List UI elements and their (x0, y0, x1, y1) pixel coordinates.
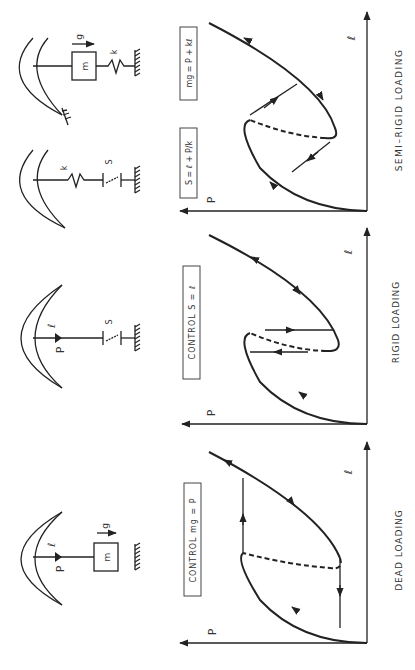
schematic-rigid: P ℓ S (21, 285, 140, 388)
displacement-label: S (105, 319, 114, 324)
gravity-label: g (74, 34, 84, 40)
control-box-semi-1: S = ℓ + P/k (180, 128, 197, 198)
loading-diagram: m g k k S P ℓ S (0, 0, 415, 670)
p-axis-label: P (205, 196, 218, 203)
svg-text:CONTROL S = ℓ: CONTROL S = ℓ (188, 285, 197, 360)
plot-dead: ℓ P DEAD LOADING (180, 442, 404, 643)
svg-text:mg = P + kℓ: mg = P + kℓ (185, 38, 194, 87)
schematic-semi-rigid-mass: m g k (19, 34, 140, 125)
plot-rigid: ℓ P RIGID LOADING (182, 228, 401, 424)
l-axis-label: ℓ (342, 250, 355, 256)
gravity-label: g (100, 523, 110, 529)
spring-icon (68, 174, 103, 187)
control-box-semi-2: mg = P + kℓ (180, 27, 197, 100)
plot-semi-rigid: ℓ P SEMI–RIGID LOADING (180, 12, 404, 211)
ground-hatch-icon (62, 108, 71, 125)
load-arrow-icon (55, 552, 62, 562)
panel-caption: DEAD LOADING (394, 509, 404, 591)
mass-label: m (102, 553, 112, 562)
svg-text:S = ℓ + P/k: S = ℓ + P/k (185, 141, 194, 185)
load-arrow-icon (55, 333, 62, 343)
p-axis-label: P (206, 628, 219, 635)
schematic-semi-rigid-spring: k S (20, 150, 140, 228)
spring-label: k (60, 165, 69, 170)
panel-caption: RIGID LOADING (391, 281, 401, 363)
l-axis-label: ℓ (342, 470, 355, 476)
schematic-dead: P ℓ m g (21, 512, 140, 605)
control-box-rigid: CONTROL S = ℓ (183, 266, 200, 379)
load-label: P (54, 565, 67, 572)
displacement-label: S (105, 159, 114, 164)
p-axis-label: P (205, 409, 218, 416)
load-label: P (54, 346, 67, 353)
mass-label: m (80, 62, 90, 71)
control-box-dead: CONTROL mg = P (184, 483, 201, 596)
deflection-label: ℓ (46, 324, 57, 328)
svg-text:CONTROL mg = P: CONTROL mg = P (189, 497, 198, 582)
l-axis-label: ℓ (345, 36, 358, 42)
spring-label: k (110, 49, 119, 54)
spring-icon (96, 60, 135, 73)
panel-caption: SEMI–RIGID LOADING (394, 49, 404, 172)
deflection-label: ℓ (46, 543, 57, 547)
